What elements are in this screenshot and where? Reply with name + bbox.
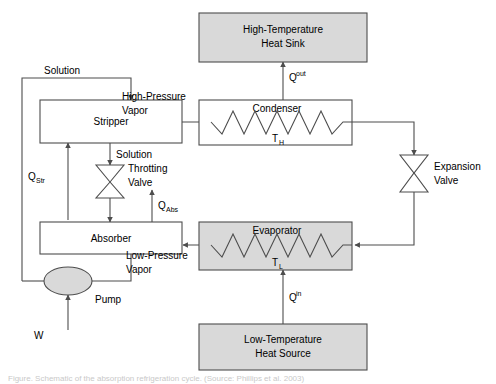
flow-expansion-to-evaporator bbox=[355, 192, 414, 245]
throttling-valve-label-line1: Throtting bbox=[128, 163, 167, 174]
figure-caption: Figure. Schematic of the absorption refr… bbox=[8, 374, 428, 384]
heat-source-box bbox=[199, 324, 367, 370]
flow-condenser-to-expansion bbox=[352, 122, 414, 155]
solution-mid-label: Solution bbox=[116, 149, 152, 160]
q-str-label: Q bbox=[28, 171, 36, 182]
q-in-superscript: in bbox=[296, 290, 302, 297]
stripper-label: Stripper bbox=[93, 116, 129, 127]
heat-source-label-line1: Low-Temperature bbox=[244, 334, 322, 345]
q-abs-subscript: Abs bbox=[166, 206, 179, 213]
low-pressure-vapor-label-line1: Low-Pressure bbox=[126, 250, 188, 261]
condenser-temperature: T bbox=[272, 133, 278, 144]
throttling-valve-label-line2: Valve bbox=[128, 177, 153, 188]
solution-top-label: Solution bbox=[44, 65, 80, 76]
figure-canvas: High-Temperature Heat Sink Condenser T H… bbox=[0, 0, 496, 384]
q-abs-label: Q bbox=[158, 200, 166, 211]
work-label: W bbox=[34, 330, 44, 341]
absorber-label: Absorber bbox=[91, 233, 132, 244]
evaporator-temperature: T bbox=[272, 257, 278, 268]
cycle-diagram: High-Temperature Heat Sink Condenser T H… bbox=[0, 0, 496, 384]
throttling-valve-symbol bbox=[96, 165, 124, 198]
low-pressure-vapor-label-line2: Vapor bbox=[126, 264, 153, 275]
q-out-superscript: out bbox=[296, 70, 306, 77]
evaporator-temperature-subscript: L bbox=[279, 263, 283, 270]
expansion-valve-label-line2: Valve bbox=[434, 175, 459, 186]
pump-symbol bbox=[44, 267, 92, 295]
condenser-temperature-subscript: H bbox=[279, 139, 284, 146]
high-pressure-vapor-label-line1: High-Pressure bbox=[122, 91, 186, 102]
expansion-valve-label-line1: Expansion bbox=[434, 161, 481, 172]
heat-sink-label-line2: Heat Sink bbox=[261, 38, 305, 49]
expansion-valve-symbol bbox=[400, 155, 428, 192]
high-pressure-vapor-label-line2: Vapor bbox=[122, 105, 149, 116]
q-str-subscript: Str bbox=[36, 177, 46, 184]
heat-sink-label-line1: High-Temperature bbox=[243, 24, 323, 35]
heat-source-label-line2: Heat Source bbox=[255, 348, 311, 359]
pump-label: Pump bbox=[95, 294, 122, 305]
